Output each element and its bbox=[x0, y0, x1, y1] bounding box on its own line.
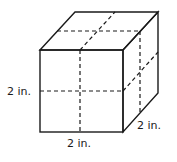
depth-label: 2 in. bbox=[137, 119, 161, 132]
right-diagonal-midline bbox=[123, 52, 158, 91]
cube-right-face bbox=[123, 12, 158, 132]
width-label: 2 in. bbox=[67, 137, 91, 150]
cube-diagram: 2 in. 2 in. 2 in. bbox=[0, 0, 177, 162]
height-label: 2 in. bbox=[7, 85, 31, 98]
